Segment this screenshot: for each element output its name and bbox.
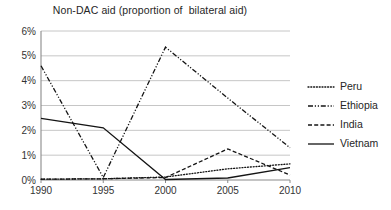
x-axis-tick-label: 2010 (279, 185, 302, 196)
y-axis-tick-label: 6% (22, 26, 37, 37)
x-axis: 19901995200020052010 (30, 180, 302, 196)
y-axis-tick-label: 1% (22, 150, 37, 161)
chart-legend: PeruEthiopiaIndiaVietnam (308, 80, 379, 149)
legend-label-peru: Peru (340, 80, 362, 92)
line-chart-plot: 0%1%2%3%4%5%6% 19901995200020052010 Peru… (0, 0, 391, 210)
x-axis-tick-label: 2005 (217, 185, 240, 196)
legend-label-ethiopia: Ethiopia (340, 99, 378, 111)
y-axis: 0%1%2%3%4%5%6% (22, 26, 41, 186)
x-axis-tick-label: 1990 (30, 185, 53, 196)
x-axis-tick-label: 2000 (154, 185, 177, 196)
legend-label-india: India (340, 118, 363, 130)
gridlines (41, 31, 290, 155)
y-axis-tick-label: 4% (22, 75, 37, 86)
y-axis-tick-label: 2% (22, 125, 37, 136)
chart-container: Non-DAC aid (proportion of bilateral aid… (0, 0, 391, 210)
y-axis-tick-label: 3% (22, 100, 37, 111)
y-axis-tick-label: 0% (22, 175, 37, 186)
series-line-india (41, 149, 290, 179)
y-axis-tick-label: 5% (22, 50, 37, 61)
series-line-ethiopia (41, 47, 290, 177)
x-axis-tick-label: 1995 (92, 185, 115, 196)
series-line-vietnam (41, 118, 290, 179)
legend-label-vietnam: Vietnam (340, 137, 379, 149)
data-series-group (41, 47, 290, 179)
